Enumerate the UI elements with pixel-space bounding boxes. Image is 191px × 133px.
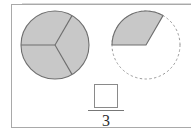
partial-circle-shaded-sector <box>112 11 163 45</box>
worksheet-problem: ) 3 <box>0 0 191 133</box>
whole-shaded-circle <box>21 11 89 79</box>
one-third-shaded-circle <box>112 11 180 79</box>
answer-fraction: 3 <box>88 84 124 129</box>
fraction-bar <box>88 110 124 111</box>
denominator-value: 3 <box>88 112 124 129</box>
numerator-input-box[interactable] <box>94 84 118 108</box>
